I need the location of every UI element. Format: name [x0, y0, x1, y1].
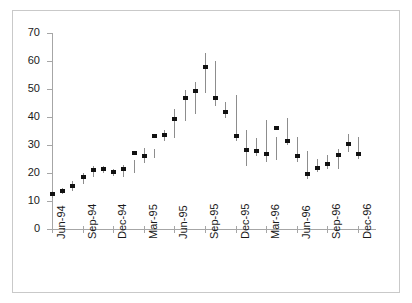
close-value-marker — [234, 134, 239, 138]
high-low-range-bar — [276, 137, 277, 161]
close-value-marker — [162, 133, 167, 137]
y-axis-tick — [47, 33, 52, 34]
high-low-range-bar — [195, 82, 196, 114]
close-value-marker — [285, 139, 290, 143]
x-axis-tick-label: Dec-96 — [362, 204, 373, 239]
close-value-marker — [142, 154, 147, 158]
close-value-marker — [111, 170, 116, 174]
close-value-marker — [213, 96, 218, 100]
close-value-marker — [81, 175, 86, 179]
close-value-marker — [91, 168, 96, 172]
y-axis-tick — [47, 145, 52, 146]
close-value-marker — [121, 167, 126, 171]
x-axis-tick — [358, 226, 359, 233]
close-value-marker — [50, 192, 55, 196]
high-low-range-bar — [297, 137, 298, 162]
high-low-range-bar — [256, 138, 257, 156]
x-axis-tick-label: Sep-94 — [87, 204, 98, 239]
x-axis-tick — [327, 226, 328, 233]
y-axis-tick — [47, 173, 52, 174]
x-axis-tick-label: Jun-94 — [56, 205, 67, 239]
close-value-marker — [254, 149, 259, 153]
x-axis-tick — [144, 226, 145, 233]
x-axis-tick-label: Jun-96 — [301, 205, 312, 239]
y-axis-tick — [47, 61, 52, 62]
close-value-marker — [132, 151, 137, 155]
high-low-range-bar — [205, 53, 206, 94]
y-axis-tick-label: 30 — [10, 139, 40, 150]
y-axis-tick-label: 60 — [10, 55, 40, 66]
close-value-marker — [356, 152, 361, 156]
close-value-marker — [70, 184, 75, 188]
x-axis-tick — [83, 226, 84, 233]
close-value-marker — [295, 154, 300, 158]
close-value-marker — [336, 153, 341, 157]
x-axis-tick-label: Mar-95 — [148, 204, 159, 239]
x-axis-tick — [205, 226, 206, 233]
high-low-range-bar — [134, 160, 135, 173]
close-value-marker — [346, 142, 351, 146]
y-axis-tick — [47, 89, 52, 90]
close-value-marker — [305, 172, 310, 176]
y-axis-tick-label: 0 — [10, 223, 40, 234]
y-axis-tick-label: 40 — [10, 111, 40, 122]
x-axis-tick-label: Mar-96 — [270, 204, 281, 239]
y-axis-tick-label: 10 — [10, 195, 40, 206]
close-value-marker — [203, 65, 208, 69]
y-axis-tick-label: 50 — [10, 83, 40, 94]
x-axis-tick — [52, 226, 53, 233]
y-axis-tick — [47, 117, 52, 118]
y-axis-tick-label: 20 — [10, 167, 40, 178]
x-axis-tick — [174, 226, 175, 233]
y-axis-line — [52, 33, 53, 230]
y-axis-tick — [47, 201, 52, 202]
close-value-marker — [264, 152, 269, 156]
x-axis-tick — [113, 226, 114, 233]
close-value-marker — [152, 134, 157, 138]
close-value-marker — [325, 162, 330, 166]
close-value-marker — [183, 96, 188, 100]
close-value-marker — [60, 189, 65, 193]
close-value-marker — [274, 126, 279, 130]
high-low-range-bar — [154, 149, 155, 157]
price-range-chart: 010203040506070Jun-94Sep-94Dec-94Mar-95J… — [0, 0, 412, 303]
x-axis-tick — [297, 226, 298, 233]
x-axis-tick-label: Dec-95 — [240, 204, 251, 239]
close-value-marker — [223, 110, 228, 114]
x-axis-tick — [266, 226, 267, 233]
close-value-marker — [172, 117, 177, 121]
x-axis-tick-label: Sep-96 — [331, 204, 342, 239]
y-axis-tick-label: 70 — [10, 27, 40, 38]
close-value-marker — [193, 89, 198, 93]
x-axis-tick — [236, 226, 237, 233]
x-axis-tick-label: Sep-95 — [209, 204, 220, 239]
close-value-marker — [244, 148, 249, 152]
close-value-marker — [101, 167, 106, 171]
x-axis-tick-label: Jun-95 — [178, 205, 189, 239]
close-value-marker — [315, 166, 320, 170]
high-low-range-bar — [174, 109, 175, 138]
x-axis-tick-label: Dec-94 — [117, 204, 128, 239]
